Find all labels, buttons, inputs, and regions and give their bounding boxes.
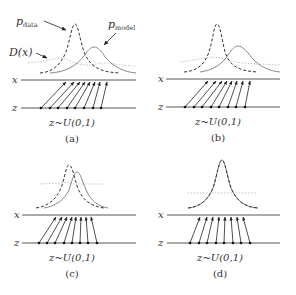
p-model-label: pmodel [108,18,135,32]
z-axis-label: z [157,101,164,112]
p-model-pointer-arrow [104,33,116,45]
discriminator-label: D(x) [8,46,33,59]
x-axis-label: x [12,74,18,85]
data-distribution-curve [184,24,258,72]
sampling-label: z~U(0,1) [194,116,241,127]
panel-caption: (a) [65,133,79,144]
data-distribution-curve [188,160,258,208]
generator-mapping-arrows [41,82,107,108]
p-data-pointer-arrow [44,21,66,30]
z-axis-label: z [11,102,18,113]
discriminator-pointer-arrow [36,53,47,58]
discriminator-curve [40,183,104,184]
model-distribution-curve [44,172,108,208]
panel-caption: (b) [211,132,225,143]
gan-training-diagram: x z pdata pmodel D(x) z~U(0,1) ( [0,0,296,295]
sampling-label: z~U(0,1) [48,252,95,263]
p-data-label: pdata [16,15,38,29]
z-axis-label: z [157,237,164,248]
panel-a: x z pdata pmodel D(x) z~U(0,1) ( [8,15,136,144]
generator-mapping-arrows [190,217,250,243]
model-distribution-curve [188,160,258,208]
z-axis-label: z [13,237,20,248]
x-axis-label: x [158,209,164,220]
panel-caption: (c) [65,268,79,279]
sampling-label: z~U(0,1) [48,117,95,128]
data-distribution-curve [40,24,120,73]
generator-mapping-arrows [39,217,97,243]
x-axis-label: x [14,209,20,220]
panel-b: x z z~U(0,1) (b) [157,24,280,143]
discriminator-curve [180,57,280,65]
panel-c: x z z~U(0,1) (c) [13,165,136,279]
generator-mapping-arrows [185,81,250,107]
panel-d: x z z~U(0,1) (d) [157,160,280,279]
sampling-label: z~U(0,1) [196,252,243,263]
x-axis-label: x [158,73,164,84]
model-distribution-curve [50,47,136,73]
model-distribution-curve [200,46,280,72]
panel-caption: (d) [213,268,227,279]
